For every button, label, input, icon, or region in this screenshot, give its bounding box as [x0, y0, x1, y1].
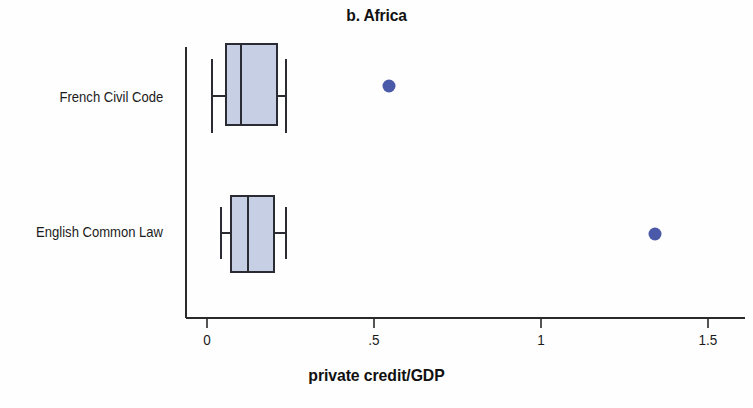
boxplot-english-common-law — [221, 196, 662, 272]
x-tick-label-0: 0 — [189, 331, 225, 348]
outlier-point — [649, 228, 662, 241]
box-iqr — [231, 196, 274, 272]
x-axis-title: private credit/GDP — [26, 366, 726, 386]
outlier-point — [383, 80, 396, 93]
box-iqr — [226, 44, 277, 125]
x-tick-label-1-5: 1.5 — [690, 331, 726, 348]
boxplot-french-civil-code — [212, 44, 396, 133]
chart-figure: b. Africa French Civil Code English Comm… — [0, 0, 753, 408]
x-tick-label-1: 1 — [523, 331, 559, 348]
x-tick-label-0-5: .5 — [356, 331, 392, 348]
x-axis-ticks — [207, 318, 708, 328]
